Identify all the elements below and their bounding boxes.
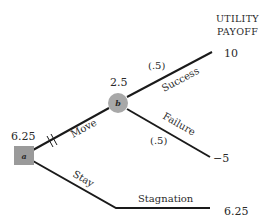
branch-label-failure: Failure	[161, 110, 198, 137]
node-a-value: 6.25	[11, 130, 36, 143]
branch-label-move: Move	[69, 117, 99, 140]
decision-node-a-label: a	[21, 151, 26, 161]
decision-tree: a b 6.25 2.5 UTILITY PAYOFF Move Success…	[0, 0, 271, 224]
header-utility: UTILITY	[216, 13, 259, 24]
header-payoff: PAYOFF	[217, 26, 258, 37]
payoff-success: 10	[224, 47, 238, 60]
payoff-stagnation: 6.25	[224, 205, 249, 218]
chance-node-b-label: b	[115, 98, 121, 108]
probability-failure: (.5)	[150, 135, 167, 146]
branch-label-stay: Stay	[71, 168, 96, 189]
node-b-value: 2.5	[110, 76, 128, 89]
branch-label-stagnation: Stagnation	[138, 193, 194, 204]
probability-success: (.5)	[148, 60, 165, 71]
payoff-failure: −5	[213, 152, 229, 165]
